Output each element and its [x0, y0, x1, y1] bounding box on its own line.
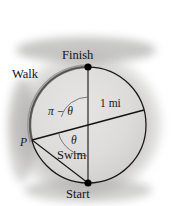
label-start: Start	[66, 188, 90, 201]
start-point-dot	[84, 179, 91, 186]
label-swim: Swim	[57, 149, 86, 162]
label-diameter-length: 1 mi	[100, 98, 121, 110]
label-angle-theta: θ	[71, 135, 77, 147]
label-angle-pi-minus-theta: π − θ	[48, 106, 73, 118]
lake-diagram-svg	[0, 0, 171, 206]
figure-container: Finish Start Walk Swim 1 mi π − θ θ P	[0, 0, 171, 206]
label-point-p: P	[20, 137, 27, 149]
finish-point-dot	[84, 63, 91, 70]
label-finish: Finish	[62, 49, 93, 62]
label-walk: Walk	[12, 68, 38, 81]
